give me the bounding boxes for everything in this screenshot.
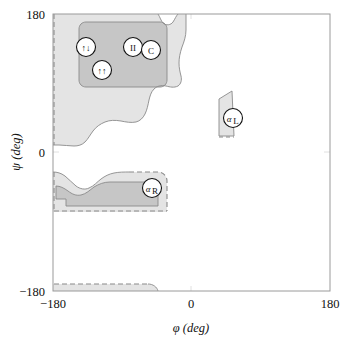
alpha-R-subscript: R	[152, 186, 158, 196]
y-axis-title: ψ (deg)	[9, 133, 23, 170]
annotation-collagen: C	[142, 41, 161, 60]
ramachandran-figure: ↑↓ ↑↑ II C α L α R	[0, 0, 349, 343]
antiparallel-beta-label: ↑↓	[82, 43, 91, 53]
alpha-L-label: α	[227, 114, 232, 124]
polyproline-label: II	[130, 43, 136, 53]
annotation-alpha-L: α L	[224, 109, 243, 128]
y-tick-min: −180	[19, 285, 45, 299]
x-tick-min: −180	[40, 297, 66, 311]
ramachandran-plot: ↑↓ ↑↑ II C α L α R	[0, 0, 349, 343]
y-tick-max: 180	[26, 8, 45, 22]
annotation-antiparallel-beta: ↑↓	[77, 38, 96, 57]
x-tick-mid: 0	[188, 297, 194, 311]
annotation-alpha-R: α R	[143, 179, 162, 198]
alpha-L-subscript: L	[233, 116, 239, 126]
annotation-parallel-beta: ↑↑	[93, 61, 112, 80]
alpha-R-label: α	[146, 184, 151, 194]
x-axis-title: φ (deg)	[173, 321, 209, 335]
annotation-polyproline-II: II	[124, 38, 143, 57]
collagen-label: C	[148, 46, 154, 56]
y-tick-mid: 0	[39, 146, 45, 160]
region-beta-wrap-bottom	[53, 284, 158, 291]
parallel-beta-label: ↑↑	[98, 66, 107, 76]
x-tick-max: 180	[321, 297, 340, 311]
